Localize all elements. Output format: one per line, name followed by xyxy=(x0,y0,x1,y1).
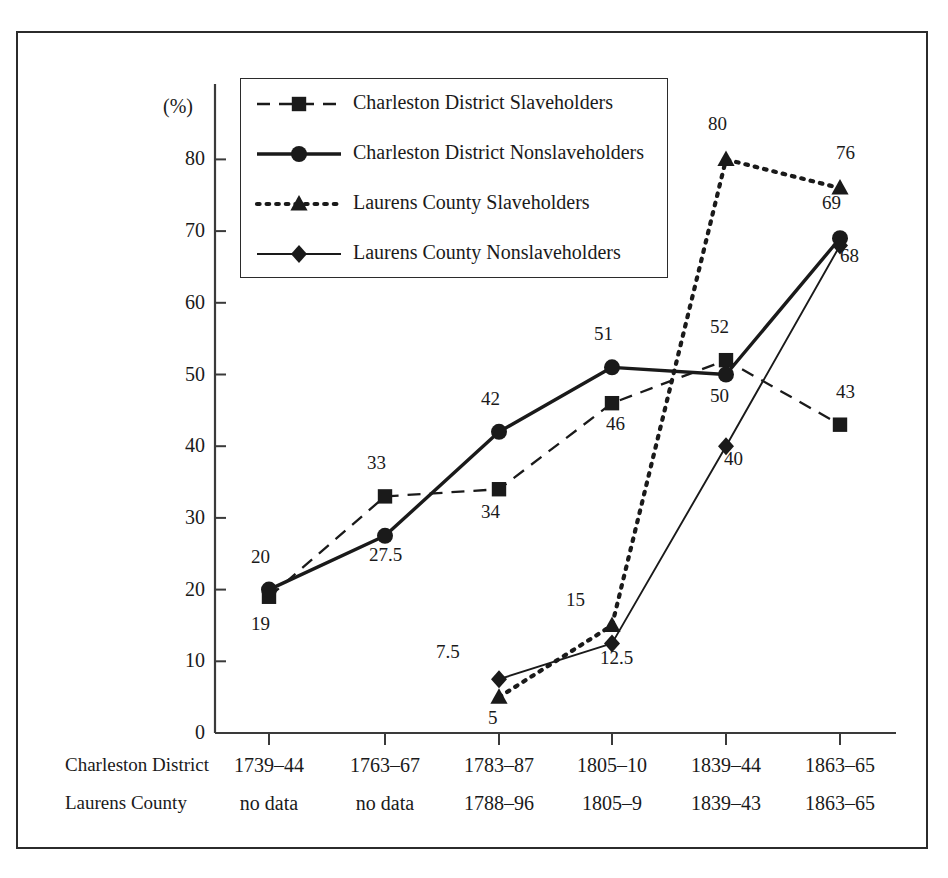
y-tick-label: 60 xyxy=(153,292,205,312)
series-marker-2-3 xyxy=(603,616,620,632)
series-marker-1-3 xyxy=(604,359,620,375)
x-axis-cell: 1805–9 xyxy=(555,793,669,813)
series-marker-0-5 xyxy=(833,417,847,431)
series-marker-2-4 xyxy=(717,150,734,166)
y-tick-label: 20 xyxy=(153,579,205,599)
data-point-label: 27.5 xyxy=(369,545,402,564)
x-axis-cell: 1788–96 xyxy=(442,793,556,813)
x-axis-cell: 1805–10 xyxy=(555,755,669,775)
data-point-label: 5 xyxy=(488,708,498,727)
data-point-label: 69 xyxy=(822,193,841,212)
x-axis-cell: 1863–65 xyxy=(783,793,897,813)
y-tick-label: 70 xyxy=(153,220,205,240)
data-point-label: 50 xyxy=(710,386,729,405)
data-point-label: 42 xyxy=(481,389,500,408)
x-axis-cell: 1763–67 xyxy=(328,755,442,775)
data-point-label: 80 xyxy=(708,114,727,133)
legend-label: Charleston District Slaveholders xyxy=(353,92,613,112)
data-point-label: 51 xyxy=(594,324,613,343)
x-axis-cell: no data xyxy=(212,793,326,813)
data-point-label: 68 xyxy=(840,246,859,265)
data-point-label: 43 xyxy=(836,382,855,401)
series-marker-0-3 xyxy=(605,396,619,410)
legend-item-2[interactable]: Laurens County Slaveholders xyxy=(241,179,669,229)
data-point-label: 33 xyxy=(367,453,386,472)
figure-root: (%) 01020304050607080 1933344652432027.5… xyxy=(0,0,948,878)
series-marker-1-2 xyxy=(491,424,507,440)
series-marker-0-1 xyxy=(378,489,392,503)
x-axis-cell: 1839–44 xyxy=(669,755,783,775)
legend-swatch-square xyxy=(253,79,345,129)
legend-swatch-circle xyxy=(253,129,345,179)
series-marker-3-2 xyxy=(491,670,507,688)
data-point-label: 76 xyxy=(836,143,855,162)
series-marker-2-2 xyxy=(490,688,507,704)
y-tick-label: 40 xyxy=(153,435,205,455)
series-marker-1-4 xyxy=(718,367,734,383)
legend-item-0[interactable]: Charleston District Slaveholders xyxy=(241,79,669,129)
data-point-label: 19 xyxy=(251,614,270,633)
data-point-label: 7.5 xyxy=(436,642,460,661)
legend-label: Charleston District Nonslaveholders xyxy=(353,142,644,162)
legend: Charleston District SlaveholdersCharlest… xyxy=(240,78,668,278)
data-point-label: 40 xyxy=(724,449,743,468)
x-axis-cell: 1783–87 xyxy=(442,755,556,775)
data-point-label: 15 xyxy=(566,590,585,609)
data-point-label: 20 xyxy=(251,547,270,566)
y-tick-label: 0 xyxy=(153,722,205,742)
series-line-3 xyxy=(499,245,840,679)
series-marker-1-1 xyxy=(377,528,393,544)
x-axis-cell: 1739–44 xyxy=(212,755,326,775)
x-axis-cell: 1863–65 xyxy=(783,755,897,775)
y-tick-label: 30 xyxy=(153,507,205,527)
legend-swatch-triangle xyxy=(253,179,345,229)
legend-item-1[interactable]: Charleston District Nonslaveholders xyxy=(241,129,669,179)
y-axis-unit-label: (%) xyxy=(163,96,193,116)
x-axis-row-label: Charleston District xyxy=(65,755,209,774)
x-axis-row-label: Laurens County xyxy=(65,793,187,812)
data-point-label: 46 xyxy=(606,414,625,433)
series-marker-0-4 xyxy=(719,353,733,367)
legend-item-3[interactable]: Laurens County Nonslaveholders xyxy=(241,229,669,279)
legend-label: Laurens County Nonslaveholders xyxy=(353,242,621,262)
y-tick-label: 80 xyxy=(153,148,205,168)
series-marker-0-2 xyxy=(492,482,506,496)
data-point-label: 12.5 xyxy=(600,648,633,667)
series-marker-1-0 xyxy=(261,582,277,598)
legend-label: Laurens County Slaveholders xyxy=(353,192,590,212)
x-axis-cell: no data xyxy=(328,793,442,813)
y-tick-label: 10 xyxy=(153,650,205,670)
y-tick-label: 50 xyxy=(153,364,205,384)
series-line-1 xyxy=(269,238,840,589)
data-point-label: 34 xyxy=(481,502,500,521)
legend-swatch-diamond xyxy=(253,229,345,279)
x-axis-cell: 1839–43 xyxy=(669,793,783,813)
data-point-label: 52 xyxy=(710,317,729,336)
